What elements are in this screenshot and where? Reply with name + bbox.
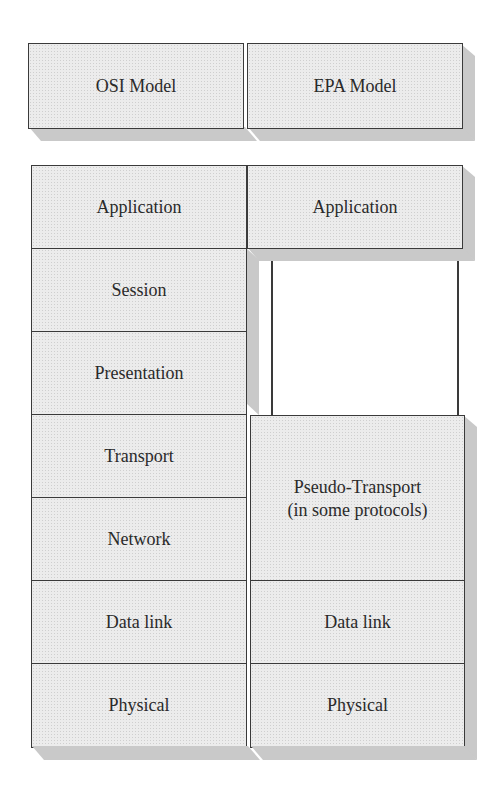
osi-stack-bottom-face bbox=[32, 746, 260, 760]
osi-header-bottom-face bbox=[29, 127, 257, 141]
epa-header-bottom-face bbox=[248, 127, 475, 141]
epa-model-header: EPA Model bbox=[247, 43, 463, 129]
osi-layer-physical: Physical bbox=[31, 663, 247, 748]
epa-application-bottom-face bbox=[247, 247, 475, 261]
epa-layer-physical: Physical bbox=[250, 663, 465, 748]
osi-model-header: OSI Model bbox=[28, 43, 244, 129]
epa-header-right-face bbox=[461, 44, 475, 141]
epa-layer-pseudo-transport: Pseudo-Transport (in some protocols) bbox=[250, 415, 465, 582]
osi-layer-network: Network bbox=[31, 497, 247, 581]
epa-layer-data-link: Data link bbox=[250, 580, 465, 664]
epa-stack-bottom-face bbox=[251, 746, 477, 760]
osi-layer-application: Application bbox=[31, 165, 247, 249]
epa-model-title: EPA Model bbox=[314, 75, 397, 98]
osi-layer-presentation: Presentation bbox=[31, 331, 247, 415]
osi-layer-data-link: Data link bbox=[31, 580, 247, 664]
epa-layer-application: Application bbox=[247, 165, 463, 249]
osi-layer-transport: Transport bbox=[31, 414, 247, 498]
epa-lower-right-face bbox=[463, 415, 477, 760]
osi-model-title: OSI Model bbox=[96, 75, 177, 98]
epa-application-right-face bbox=[461, 165, 475, 261]
epa-gap-right-line bbox=[457, 261, 459, 415]
osi-session-presentation-right-face bbox=[246, 248, 259, 415]
epa-gap-left-line bbox=[271, 261, 273, 415]
osi-layer-session: Session bbox=[31, 248, 247, 332]
